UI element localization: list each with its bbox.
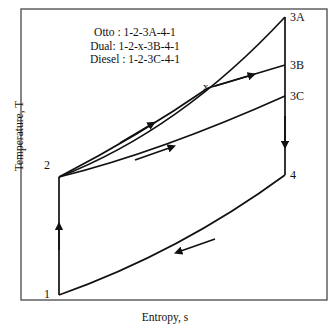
state-label-x: x	[203, 80, 209, 92]
state-label-3C: 3C	[290, 90, 304, 102]
y-axis-label: Temperature, T	[13, 81, 25, 191]
state-label-2: 2	[44, 159, 50, 171]
ts-diagram-figure: Otto : 1-2-3A-4-1 Dual: 1-2-x-3B-4-1 Die…	[0, 0, 330, 331]
process-2-x	[59, 88, 208, 177]
process-x-3B-arrow	[215, 75, 252, 86]
state-label-3A: 3A	[290, 11, 305, 23]
legend-item-otto: Otto : 1-2-3A-4-1	[62, 26, 208, 40]
state-label-1: 1	[44, 288, 50, 300]
legend-item-diesel: Diesel : 1-2-3C-4-1	[62, 53, 208, 67]
process-4-1	[59, 175, 285, 295]
state-label-3B: 3B	[290, 59, 304, 71]
state-label-4: 4	[290, 169, 296, 181]
legend-item-dual: Dual: 1-2-x-3B-4-1	[62, 40, 208, 54]
process-2-3C	[59, 96, 285, 177]
x-axis-label: Entropy, s	[0, 311, 330, 323]
process-4-1-arrow	[178, 239, 215, 252]
cycle-legend: Otto : 1-2-3A-4-1 Dual: 1-2-x-3B-4-1 Die…	[62, 26, 208, 67]
